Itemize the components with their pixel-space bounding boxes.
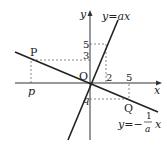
line-neg-label-suffix: x (155, 118, 162, 131)
tick-y3: 3 (83, 50, 89, 61)
point-Q-label: Q (124, 102, 133, 115)
frac-den: a (145, 124, 150, 134)
point-P-label: P (30, 46, 38, 59)
frac-num: 1 (146, 111, 152, 121)
point-p-x-label: p (28, 85, 35, 98)
line-neg-label-prefix: y=− (117, 118, 143, 131)
guide-5-2 (90, 44, 106, 83)
diagram: y x O y=ax 5 3 2 5 P p Q q y=− 1 a x (0, 0, 167, 150)
y-axis-label: y (79, 8, 87, 21)
y-axis-arrow (88, 10, 93, 16)
line-ax-label: y=ax (101, 10, 131, 23)
origin-label: O (79, 70, 88, 83)
point-q-y-label: q (83, 94, 89, 105)
tick-y5: 5 (83, 39, 89, 50)
tick-x5: 5 (126, 72, 132, 83)
x-axis-label: x (154, 84, 161, 97)
tick-x2: 2 (106, 72, 112, 83)
